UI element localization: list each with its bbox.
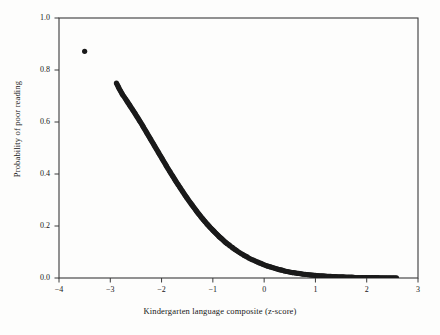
x-tick-label: −2: [150, 285, 174, 294]
y-tick-label: 0.8: [26, 65, 50, 74]
x-axis-ticks: [59, 278, 418, 283]
x-tick-label: −4: [47, 285, 71, 294]
plot-frame: [59, 18, 418, 278]
x-tick-label: 2: [355, 285, 379, 294]
figure-container: −4−3−2−10123 0.00.20.40.60.81.0 Kinderga…: [0, 0, 440, 335]
data-point-markers: [82, 49, 399, 281]
y-tick-label: 0.6: [26, 117, 50, 126]
y-tick-label: 1.0: [26, 13, 50, 22]
y-tick-label: 0.0: [26, 273, 50, 282]
x-tick-label: 0: [252, 285, 276, 294]
x-axis-title: Kindergarten language composite (z-score…: [0, 306, 440, 316]
x-tick-label: 3: [406, 285, 430, 294]
y-tick-label: 0.4: [26, 169, 50, 178]
y-axis-title: Probability of poor reading: [12, 49, 22, 209]
x-tick-label: 1: [303, 285, 327, 294]
x-tick-label: −3: [98, 285, 122, 294]
x-tick-label: −1: [201, 285, 225, 294]
y-axis-ticks: [55, 18, 60, 278]
y-tick-label: 0.2: [26, 221, 50, 230]
